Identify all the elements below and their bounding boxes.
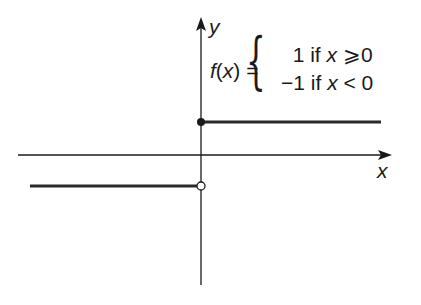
formula-case-1: 1 if x ⩾0: [281, 44, 373, 65]
open-endpoint: [197, 182, 205, 190]
formula-brace: {: [246, 30, 266, 92]
x-axis-label: x: [377, 160, 388, 181]
formula-case-2: −1 if x < 0: [281, 72, 373, 93]
closed-endpoint: [197, 118, 205, 126]
y-axis-label: y: [209, 16, 220, 37]
